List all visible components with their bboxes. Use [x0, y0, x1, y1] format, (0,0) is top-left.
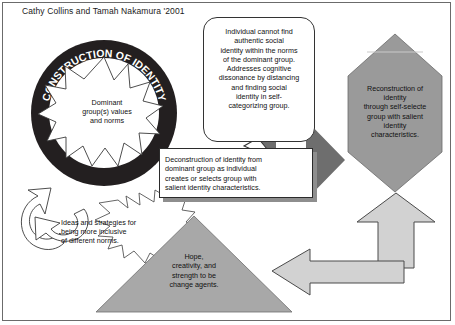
reconstruction-hexagon-text: Reconstruction of identity through self-… — [347, 84, 443, 139]
callout-line: dissonance by distancing — [206, 73, 312, 82]
callout-line: authentic social — [206, 36, 312, 45]
hexagon-line: group with salient — [347, 112, 443, 121]
ideas-burst-text: Ideas and strategies for being more incl… — [61, 218, 169, 246]
callout-line: and finding social — [206, 83, 312, 92]
hexagon-line: characteristics. — [347, 130, 443, 139]
hexagon-line: identity — [347, 93, 443, 102]
hexagon-line: identity — [347, 121, 443, 130]
triangle-line: change agents. — [148, 280, 240, 289]
ideas-line: being more inclusive — [61, 227, 169, 236]
callout-line: identity within the norms — [206, 46, 312, 55]
hexagon-line: Reconstruction of — [347, 84, 443, 93]
callout-line: Individual cannot find — [206, 27, 312, 36]
triangle-line: strength to be — [148, 271, 240, 280]
starburst-line: group(s) values — [55, 107, 159, 116]
ideas-line: of different norms. — [61, 236, 169, 245]
dominant-group-text: Dominant group(s) values and norms — [55, 98, 159, 126]
callout-line: of the dominant group. — [206, 55, 312, 64]
triangle-line: Hope, — [148, 252, 240, 261]
individual-callout-text: Individual cannot find authentic social … — [206, 27, 312, 111]
diagram-canvas: Cathy Collins and Tamah Nakamura '2001 C… — [0, 0, 455, 325]
deconstruction-line: creates or selects group with — [165, 174, 307, 183]
callout-line: identity in self- — [206, 92, 312, 101]
deconstruction-box-text: Deconstruction of identity from dominant… — [165, 155, 307, 193]
hope-triangle-text: Hope, creativity, and strength to be cha… — [148, 252, 240, 289]
starburst-line: Dominant — [55, 98, 159, 107]
deconstruction-line: Deconstruction of identity from — [165, 155, 307, 164]
ideas-line: Ideas and strategies for — [61, 218, 169, 227]
triangle-line: creativity, and — [148, 261, 240, 270]
deconstruction-line: salient identity characteristics. — [165, 183, 307, 192]
starburst-line: and norms — [55, 116, 159, 125]
callout-line: categorizing group. — [206, 101, 312, 110]
hexagon-line: through self-selecte — [347, 102, 443, 111]
up-arrow-light — [357, 193, 435, 268]
callout-line: Addresses cognitive — [206, 64, 312, 73]
deconstruction-line: dominant group as individual — [165, 164, 307, 173]
